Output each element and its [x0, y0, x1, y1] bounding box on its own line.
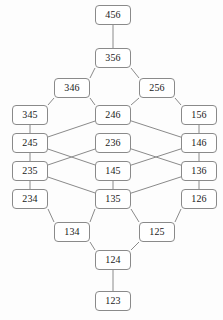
node-135[interactable]: 135: [95, 189, 131, 209]
node-134[interactable]: 134: [54, 222, 90, 242]
edge-134-124: [90, 242, 95, 250]
edge-125-124: [131, 242, 139, 250]
node-245[interactable]: 245: [12, 133, 48, 153]
edge-346-246: [90, 98, 95, 105]
edge-356-346: [90, 68, 95, 78]
edge-246-245: [48, 121, 95, 137]
node-156[interactable]: 156: [181, 105, 217, 125]
node-256[interactable]: 256: [139, 78, 175, 98]
edge-136-135: [131, 177, 181, 193]
edge-126-125: [175, 209, 181, 222]
edge-346-345: [48, 98, 54, 105]
node-246[interactable]: 246: [95, 105, 131, 125]
node-456[interactable]: 456: [95, 5, 131, 25]
edge-256-156: [175, 98, 181, 105]
node-123[interactable]: 123: [95, 291, 131, 311]
node-145[interactable]: 145: [95, 161, 131, 181]
edge-234-134: [48, 209, 54, 222]
node-346[interactable]: 346: [54, 78, 90, 98]
edge-235-135: [48, 177, 95, 193]
node-234[interactable]: 234: [12, 189, 48, 209]
node-136[interactable]: 136: [181, 161, 217, 181]
edge-256-246: [131, 98, 139, 105]
node-126[interactable]: 126: [181, 189, 217, 209]
edge-246-146: [131, 121, 181, 137]
node-236[interactable]: 236: [95, 133, 131, 153]
edge-356-256: [131, 68, 139, 78]
node-146[interactable]: 146: [181, 133, 217, 153]
node-125[interactable]: 125: [139, 222, 175, 242]
edge-135-125: [131, 209, 139, 222]
node-235[interactable]: 235: [12, 161, 48, 181]
hasse-diagram-canvas: 4563563462563452461562452361462351451362…: [0, 0, 223, 320]
node-356[interactable]: 356: [95, 48, 131, 68]
node-124[interactable]: 124: [95, 250, 131, 270]
edge-135-134: [90, 209, 95, 222]
node-345[interactable]: 345: [12, 105, 48, 125]
